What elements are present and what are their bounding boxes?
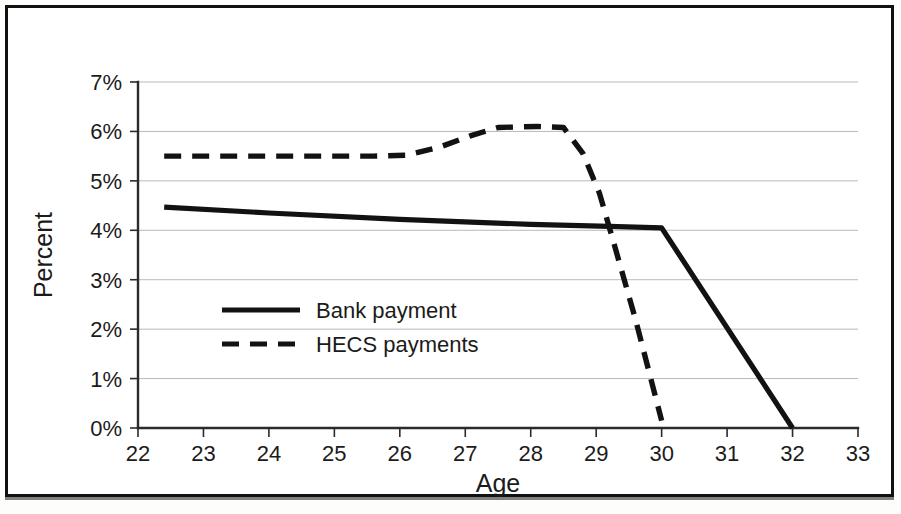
y-tick-label-0pct: 0% bbox=[90, 416, 122, 441]
legend: Bank payment HECS payments bbox=[222, 298, 479, 357]
x-tick-label-27: 27 bbox=[453, 441, 477, 466]
x-tick-label-30: 30 bbox=[649, 441, 673, 466]
y-axis-tick-labels: 0%1%2%3%4%5%6%7% bbox=[90, 70, 122, 441]
y-tick-label-5pct: 5% bbox=[90, 169, 122, 194]
x-tick-label-32: 32 bbox=[780, 441, 804, 466]
x-axis-title: Age bbox=[476, 469, 520, 497]
x-tick-label-31: 31 bbox=[715, 441, 739, 466]
y-tick-label-1pct: 1% bbox=[90, 367, 122, 392]
x-tick-label-24: 24 bbox=[257, 441, 281, 466]
y-tick-label-7pct: 7% bbox=[90, 70, 122, 95]
tick-marks-group bbox=[130, 82, 858, 437]
x-tick-label-26: 26 bbox=[388, 441, 412, 466]
series-line-bank-payment bbox=[164, 207, 792, 428]
line-chart: 222324252627282930313233 0%1%2%3%4%5%6%7… bbox=[0, 0, 901, 514]
x-tick-label-25: 25 bbox=[322, 441, 346, 466]
figure-container: 222324252627282930313233 0%1%2%3%4%5%6%7… bbox=[0, 0, 901, 514]
y-axis-title: Percent bbox=[29, 212, 57, 298]
x-tick-label-33: 33 bbox=[846, 441, 870, 466]
legend-label-bank-payment: Bank payment bbox=[316, 298, 457, 323]
chart-canvas: 222324252627282930313233 0%1%2%3%4%5%6%7… bbox=[0, 0, 901, 514]
y-tick-label-4pct: 4% bbox=[90, 218, 122, 243]
x-tick-label-23: 23 bbox=[191, 441, 215, 466]
legend-label-hecs-payments: HECS payments bbox=[316, 332, 479, 357]
x-tick-label-22: 22 bbox=[126, 441, 150, 466]
series-line-hecs-payments bbox=[164, 126, 661, 420]
x-axis-tick-labels: 222324252627282930313233 bbox=[126, 441, 870, 466]
y-tick-label-3pct: 3% bbox=[90, 268, 122, 293]
x-tick-label-28: 28 bbox=[518, 441, 542, 466]
y-tick-label-6pct: 6% bbox=[90, 119, 122, 144]
y-tick-label-2pct: 2% bbox=[90, 317, 122, 342]
x-tick-label-29: 29 bbox=[584, 441, 608, 466]
